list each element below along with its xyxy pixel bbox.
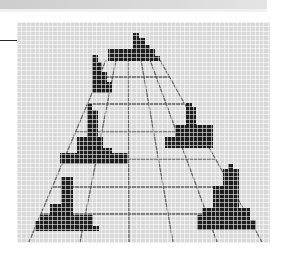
pixel-block xyxy=(108,49,155,56)
pixel-block xyxy=(197,215,250,220)
shape-top-center xyxy=(108,33,160,61)
pixel-block xyxy=(133,33,139,38)
pixel-block xyxy=(92,62,102,72)
pixel-block xyxy=(60,153,128,164)
perspective-pixel-illustration xyxy=(0,0,285,255)
pixel-block xyxy=(186,103,192,107)
pixel-block xyxy=(92,82,112,93)
pixel-block xyxy=(77,137,103,148)
pixel-block xyxy=(213,186,239,208)
pixel-block xyxy=(133,38,145,45)
floor-radial-line xyxy=(141,60,173,242)
pixel-block xyxy=(223,169,239,186)
pixel-block xyxy=(92,72,107,82)
pixel-block xyxy=(87,110,98,137)
pixel-block xyxy=(108,56,160,61)
shape-middle-right xyxy=(165,103,213,148)
shape-lower-right xyxy=(197,164,256,230)
pixel-block xyxy=(165,137,213,148)
pixel-block xyxy=(202,208,250,215)
pixel-block xyxy=(92,55,98,62)
pixel-block xyxy=(87,104,92,110)
pixel-block xyxy=(197,220,256,230)
pixel-block xyxy=(186,107,196,125)
pixel-block xyxy=(77,148,112,153)
pixel-block xyxy=(175,125,213,137)
pixel-block xyxy=(50,204,73,215)
pixel-block xyxy=(40,215,93,221)
pixel-block xyxy=(61,177,73,204)
shape-middle-left xyxy=(60,104,128,164)
pixel-block xyxy=(133,45,150,49)
pixel-block xyxy=(228,164,233,169)
pixel-block xyxy=(35,226,99,231)
pixel-block xyxy=(35,221,93,226)
